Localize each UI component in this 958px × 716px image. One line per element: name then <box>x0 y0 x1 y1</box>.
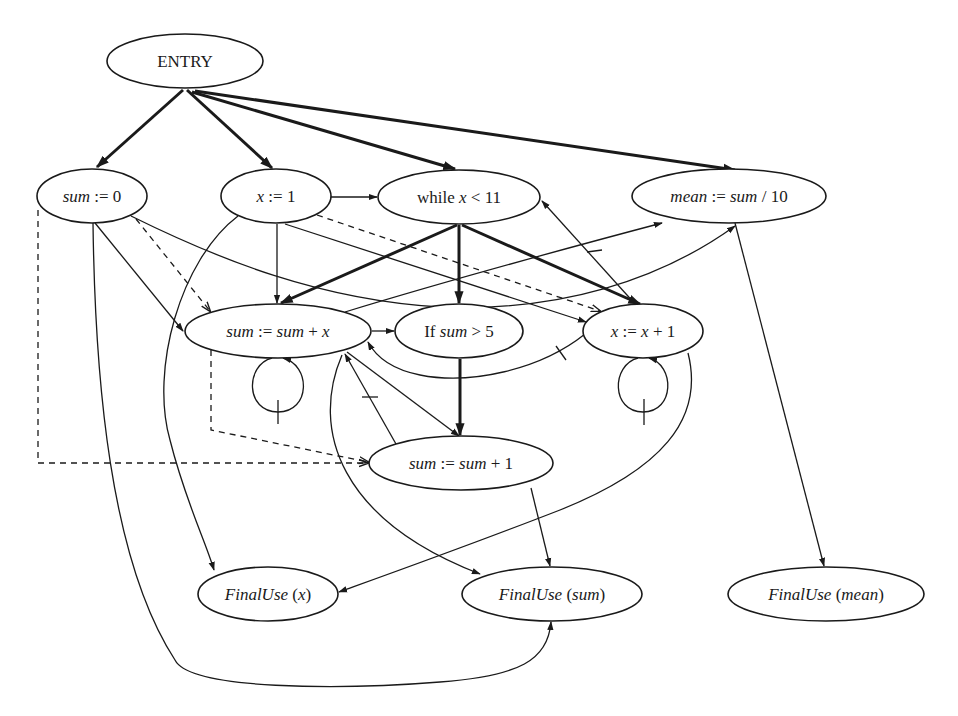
edge-sum0-sumx-dashed <box>136 219 210 311</box>
node-label: FinalUse (x) <box>224 585 311 604</box>
node-label: mean := sum / 10 <box>670 187 787 206</box>
node-label: FinalUse (mean) <box>767 585 884 604</box>
node-finaluse-x[interactable]: FinalUse (x) <box>198 567 338 621</box>
node-sum-plus-x[interactable]: sum := sum + x <box>185 304 371 358</box>
edge-xinc-while <box>542 201 636 305</box>
edge-sumx-sum1-dashed <box>211 350 368 462</box>
node-x-assign-1[interactable]: x := 1 <box>221 169 331 223</box>
node-finaluse-mean[interactable]: FinalUse (mean) <box>728 567 924 621</box>
edge-x1-fux <box>164 216 238 570</box>
edge-sum0-sumx <box>95 223 183 331</box>
node-label: x := x + 1 <box>610 322 676 341</box>
dependence-graph: ENTRY sum := 0 x := 1 while x < 11 mean … <box>0 0 958 716</box>
node-while[interactable]: while x < 11 <box>378 170 540 224</box>
edge-entry-mean <box>195 91 735 170</box>
node-sum-assign-0[interactable]: sum := 0 <box>37 169 147 223</box>
node-label: FinalUse (sum) <box>498 585 605 604</box>
node-sum-plus-1[interactable]: sum := sum + 1 <box>369 436 553 490</box>
edge-sum1-fusum <box>531 488 550 566</box>
edge-entry-sum0 <box>97 90 183 167</box>
edge-sum1-sumx <box>345 354 396 444</box>
node-mean-assign[interactable]: mean := sum / 10 <box>632 169 826 223</box>
node-label: sum := 0 <box>63 187 122 206</box>
node-label: If sum > 5 <box>424 322 494 341</box>
node-x-plus-1[interactable]: x := x + 1 <box>583 304 703 358</box>
edge-sumx-mean <box>345 223 662 312</box>
node-label: sum := sum + x <box>226 322 330 341</box>
node-label: ENTRY <box>157 52 213 71</box>
node-finaluse-sum[interactable]: FinalUse (sum) <box>462 567 642 621</box>
node-label: x := 1 <box>256 187 296 206</box>
edge-xinc-self <box>618 358 667 412</box>
edge-sumx-sum1 <box>347 352 459 436</box>
node-if[interactable]: If sum > 5 <box>395 304 523 358</box>
nodes: ENTRY sum := 0 x := 1 while x < 11 mean … <box>37 34 924 621</box>
node-label: while x < 11 <box>417 188 501 207</box>
edge-while-xinc <box>462 225 640 304</box>
control-edges <box>97 90 735 435</box>
node-label: sum := sum + 1 <box>409 454 513 473</box>
edge-while-sumx <box>281 225 457 303</box>
edge-sum0-mean <box>131 216 735 308</box>
node-entry[interactable]: ENTRY <box>107 34 263 88</box>
loop-carried-tick <box>587 250 602 252</box>
edge-mean-fumean <box>735 223 824 566</box>
